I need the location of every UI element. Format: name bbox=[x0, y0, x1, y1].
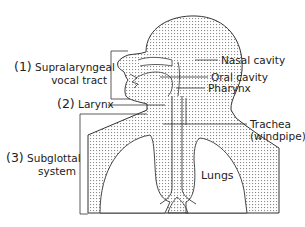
label-supralaryngeal: (1) Supralaryngeal bbox=[14, 61, 107, 73]
label-trachea: Trachea bbox=[250, 118, 291, 130]
region-number-2: (2) bbox=[57, 96, 75, 111]
speech-anatomy-diagram bbox=[0, 0, 305, 227]
label-nasal-cavity: Nasal cavity bbox=[221, 54, 285, 66]
label-vocal-tract: vocal tract bbox=[14, 74, 107, 86]
region-number-3: (3) bbox=[6, 150, 24, 165]
region-number-1: (1) bbox=[14, 59, 32, 74]
label-lungs: Lungs bbox=[201, 170, 234, 182]
label-pharynx: Pharynx bbox=[208, 82, 251, 94]
label-subglottal: (3) Subglottal bbox=[6, 152, 76, 164]
label-larynx: (2) Larynx bbox=[57, 98, 114, 110]
nasal-cavity-outline bbox=[138, 57, 172, 66]
label-system: system bbox=[6, 165, 76, 177]
label-windpipe: (windpipe) bbox=[250, 130, 305, 142]
